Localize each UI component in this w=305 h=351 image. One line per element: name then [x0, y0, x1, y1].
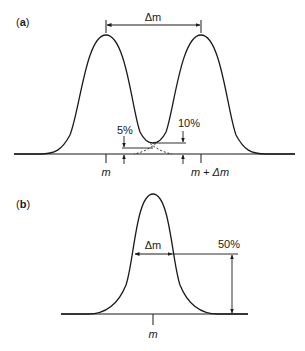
ten-pct-label: 10% — [178, 117, 200, 129]
tick-m-plus-delta-label: m + Δm — [191, 166, 229, 178]
fifty-pct-label: 50% — [218, 238, 240, 250]
panel-a: (a) Δm 5% 10% m m + Δm — [14, 11, 295, 178]
five-pct-label: 5% — [117, 124, 133, 136]
tick-m-label-a: m — [101, 166, 110, 178]
delta-m-label-a: Δm — [145, 11, 162, 23]
panel-a-label: (a) — [16, 16, 29, 28]
tick-m-label-b: m — [148, 328, 157, 340]
panel-b-label: (b) — [16, 198, 30, 210]
resolution-diagram: (a) Δm 5% 10% m m + Δm (b) — [0, 0, 305, 351]
delta-m-label-b: Δm — [145, 239, 162, 251]
doublet-peak-curve — [14, 35, 295, 154]
panel-b: (b) Δm 50% m — [16, 194, 248, 340]
